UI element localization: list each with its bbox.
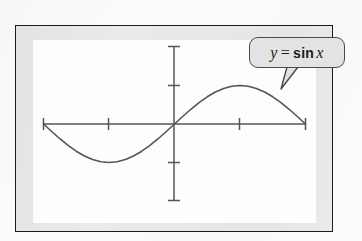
equation-variable-x: x [316, 44, 323, 61]
equation-callout: y=sinx [249, 37, 345, 68]
figure-screenshot: y=sinx [0, 0, 362, 241]
callout-pointer-tail [281, 67, 298, 89]
equation-equals-sign: = [281, 44, 290, 61]
equation-callout-label: y=sinx [270, 44, 323, 62]
equation-function-name: sin [293, 45, 314, 61]
equation-variable-y: y [270, 44, 277, 61]
